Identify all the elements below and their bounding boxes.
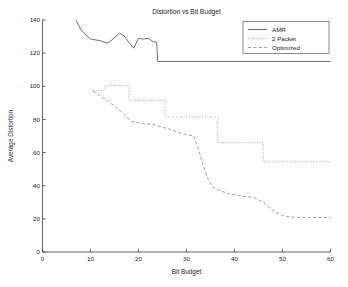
y-tick-label: 20	[33, 215, 40, 222]
y-tick-label: 140	[30, 16, 41, 23]
series-line-optimized	[93, 91, 331, 217]
x-tick-label: 10	[87, 255, 94, 262]
x-tick-label: 20	[135, 255, 142, 262]
y-axis-label: Average Distortion	[7, 109, 15, 162]
y-tick-label: 120	[30, 49, 41, 56]
chart-title: Distortion vs Bit Budget	[152, 8, 221, 16]
y-tick-label: 40	[33, 182, 40, 189]
legend-label-amr: AMR	[272, 26, 286, 33]
legend-label-optimized: Optimized	[272, 44, 300, 51]
chart-figure: 020406080100120140 0102030405060 Distort…	[0, 0, 348, 287]
x-tick-label: 0	[41, 255, 45, 262]
x-tick-label: 50	[279, 255, 286, 262]
y-tick-label: 60	[33, 149, 40, 156]
x-tick-label: 30	[183, 255, 190, 262]
x-axis-label: Bit Budget	[172, 268, 202, 276]
axes	[43, 20, 331, 252]
distortion-vs-bit-budget-chart: 020406080100120140 0102030405060 Distort…	[0, 0, 348, 287]
y-axis-ticks: 020406080100120140	[30, 16, 46, 255]
legend: AMR2 PacketOptimized	[243, 22, 329, 54]
x-tick-label: 40	[231, 255, 238, 262]
series-line-2-packet	[93, 85, 331, 161]
y-tick-label: 100	[30, 82, 41, 89]
x-axis-ticks: 0102030405060	[41, 249, 335, 262]
legend-label-2-packet: 2 Packet	[272, 35, 296, 42]
y-tick-label: 80	[33, 116, 40, 123]
x-tick-label: 60	[327, 255, 334, 262]
